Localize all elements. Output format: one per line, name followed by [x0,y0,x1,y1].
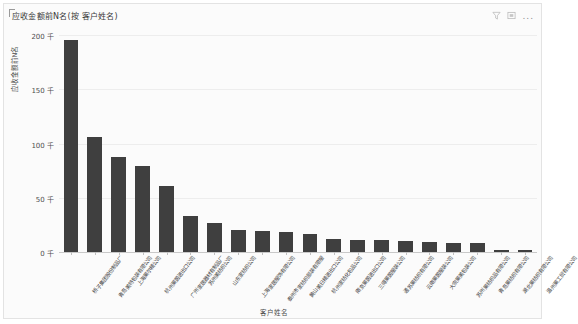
bar-slot[interactable] [350,35,365,252]
bar[interactable] [111,157,126,252]
bar-slot[interactable] [518,35,533,252]
x-axis-tick [334,252,335,255]
x-axis-line [59,252,537,253]
x-axis-tick-label: 杭州莱茵进出口公司 [164,256,196,295]
bar[interactable] [279,232,294,252]
bar-slot[interactable] [279,35,294,252]
bar[interactable] [374,240,389,252]
y-axis-tick-label: 100 千 [20,140,54,150]
x-axis-tick [95,252,96,255]
x-axis-tick [286,252,287,255]
bar[interactable] [207,223,222,252]
bar-series [59,32,537,252]
bar-slot[interactable] [64,35,79,252]
bar-slot[interactable] [87,35,102,252]
bar-slot[interactable] [422,35,437,252]
bar-slot[interactable] [135,35,150,252]
y-axis-title: 应收金额前N名 [9,39,19,99]
bar[interactable] [350,240,365,252]
x-axis-tick-label: 广州家居器材有制品厂 [190,256,225,299]
bar-slot[interactable] [207,35,222,252]
bar[interactable] [159,186,174,252]
x-axis-tick [143,252,144,255]
x-axis-tick [238,252,239,255]
bar-slot[interactable] [446,35,461,252]
bar[interactable] [326,239,341,252]
bar[interactable] [303,234,318,252]
bar[interactable] [231,230,246,252]
bar-slot[interactable] [326,35,341,252]
bar[interactable] [87,137,102,252]
bar-slot[interactable] [159,35,174,252]
bar[interactable] [135,166,150,252]
bar-slot[interactable] [111,35,126,252]
x-axis-tick [406,252,407,255]
bar[interactable] [183,216,198,252]
chart-card: 应收金额前N名(按 客户姓名) ... 应收金额前N名 0 千50 千100 千… [3,3,542,319]
x-axis-tick [167,252,168,255]
bar-slot[interactable] [255,35,270,252]
bar[interactable] [446,243,461,252]
bar-slot[interactable] [183,35,198,252]
x-axis-title: 客户姓名 [4,307,543,317]
x-axis-tick-label: 山东家纺织公司 [232,256,258,287]
y-axis-tick-label: 50 千 [20,194,54,204]
x-axis-tick [477,252,478,255]
y-axis-tick-label: 0 千 [20,248,54,258]
x-axis-tick [214,252,215,255]
bar-slot[interactable] [303,35,318,252]
bar[interactable] [422,242,437,252]
x-axis-tick-label: 大宗莱美包装公司 [449,256,478,291]
bar[interactable] [398,241,413,252]
x-axis-tick [501,252,502,255]
bar-chart-plot: 应收金额前N名 0 千50 千100 千150 千200 千 桥子集团股份制品厂… [4,4,543,320]
bar[interactable] [64,40,79,252]
bar-slot[interactable] [398,35,413,252]
x-axis-tick [310,252,311,255]
x-axis-tick-label: 桥子集团股份制品厂 [92,256,124,295]
bar-slot[interactable] [470,35,485,252]
bar-slot[interactable] [494,35,509,252]
x-axis-tick [71,252,72,255]
x-axis-tick [453,252,454,255]
x-axis-tick [262,252,263,255]
bar-slot[interactable] [231,35,246,252]
bar[interactable] [470,243,485,252]
y-axis-tick-label: 200 千 [20,31,54,41]
y-axis-tick-label: 150 千 [20,85,54,95]
bar[interactable] [255,231,270,252]
bar-slot[interactable] [374,35,389,252]
